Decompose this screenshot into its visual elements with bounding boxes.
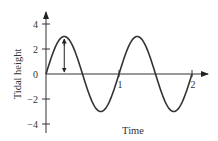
svg-text:−4: −4 <box>27 119 38 130</box>
svg-text:2: 2 <box>191 79 196 90</box>
x-axis-title: Time <box>122 125 144 136</box>
y-axis-title: Tidal height <box>12 49 23 100</box>
svg-text:1: 1 <box>118 79 123 90</box>
svg-text:4: 4 <box>33 19 38 30</box>
svg-text:2: 2 <box>33 44 38 55</box>
svg-text:0: 0 <box>33 69 38 80</box>
y-tick-labels: 4 2 0 −2 −4 <box>27 19 38 130</box>
x-tick-labels: 1 2 <box>118 79 196 90</box>
tidal-chart: 4 2 0 −2 −4 1 2 Tidal height Time <box>0 0 218 141</box>
svg-text:−2: −2 <box>27 94 38 105</box>
